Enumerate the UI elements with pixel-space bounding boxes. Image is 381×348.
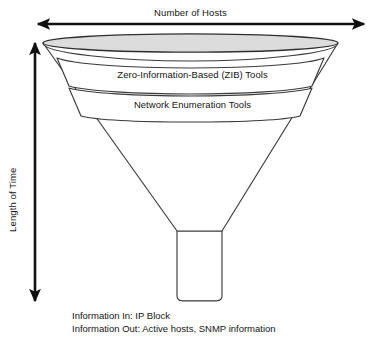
length-of-time-label: Length of Time: [8, 150, 18, 250]
funnel-band-label-zib: Zero-Information-Based (ZIB) Tools: [60, 70, 325, 80]
caption-line-information-out: Information Out: Active hosts, SNMP info…: [72, 323, 372, 336]
number-of-hosts-label: Number of Hosts: [0, 8, 381, 18]
funnel-band-label-enumeration: Network Enumeration Tools: [60, 100, 325, 110]
funnel-rim-ellipse: [43, 34, 338, 52]
funnel-stem: [177, 231, 222, 301]
funnel-diagram-svg: [0, 0, 381, 348]
caption: Information In: IP Block Information Out…: [72, 310, 372, 335]
funnel-diagram-figure: Number of Hosts Length of Time Zero-Info…: [0, 0, 381, 348]
caption-line-information-in: Information In: IP Block: [72, 310, 372, 323]
